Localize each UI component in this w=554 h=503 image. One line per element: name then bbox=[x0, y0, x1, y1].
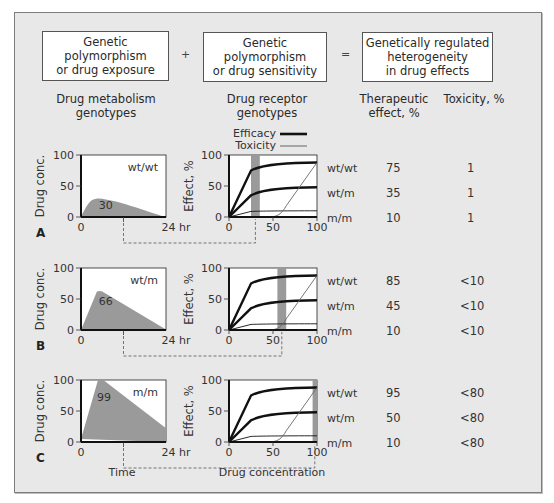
toxicity-value: <80 bbox=[460, 411, 484, 425]
conc-x-tick-label: 0 bbox=[78, 334, 85, 347]
effect-y-tick-label: 50 bbox=[208, 405, 222, 418]
toxicity-value: <80 bbox=[460, 386, 484, 400]
conc-y-tick-label: 0 bbox=[67, 324, 74, 337]
effect-x-tick-label: 100 bbox=[307, 221, 328, 234]
therapeutic-effect-value: 50 bbox=[386, 411, 401, 425]
toxicity-value: <10 bbox=[460, 299, 484, 313]
therapeutic-window-band bbox=[251, 155, 260, 217]
therapeutic-effect-value: 35 bbox=[386, 186, 401, 200]
effect-y-tick-label: 50 bbox=[208, 180, 222, 193]
therapeutic-window-band bbox=[313, 380, 317, 442]
therapeutic-effect-value: 85 bbox=[386, 274, 401, 288]
effect-x-tick-label: 100 bbox=[307, 334, 328, 347]
receptor-genotype-label: m/m bbox=[327, 437, 352, 450]
effect-x-tick-label: 0 bbox=[226, 446, 233, 459]
effect-y-tick-label: 100 bbox=[201, 149, 222, 162]
conc-y-label: Drug conc. bbox=[33, 268, 47, 330]
therapeutic-effect-value: 10 bbox=[386, 324, 401, 338]
therapeutic-effect-value: 10 bbox=[386, 211, 401, 225]
conc-y-tick-label: 50 bbox=[60, 405, 74, 418]
panel-a: 100500024 hrDrug conc.wt/wt30A1005000501… bbox=[33, 149, 358, 243]
metabolism-genotype-label: wt/m bbox=[130, 274, 158, 287]
effect-x-tick-label: 0 bbox=[226, 221, 233, 234]
peak-conc-label: 30 bbox=[99, 199, 113, 212]
receptor-genotype-label: wt/m bbox=[327, 187, 355, 200]
conc-x-tick-label: 24 hr bbox=[162, 446, 191, 459]
receptor-genotype-label: wt/wt bbox=[327, 387, 358, 400]
panel-letter: B bbox=[36, 339, 45, 353]
therapeutic-effect-value: 95 bbox=[386, 386, 401, 400]
toxicity-value: <80 bbox=[460, 436, 484, 450]
peak-conc-label: 99 bbox=[97, 391, 111, 404]
effect-y-tick-label: 0 bbox=[215, 324, 222, 337]
conc-x-tick-label: 24 hr bbox=[162, 221, 191, 234]
conc-x-tick-label: 24 hr bbox=[162, 334, 191, 347]
receptor-genotype-label: wt/m bbox=[327, 412, 355, 425]
metabolism-genotype-label: wt/wt bbox=[128, 161, 159, 174]
effect-x-tick-label: 50 bbox=[266, 446, 280, 459]
drug-concentration-axis-label: Drug concentration bbox=[219, 466, 326, 479]
effect-x-tick-label: 0 bbox=[226, 334, 233, 347]
receptor-genotype-label: wt/wt bbox=[327, 162, 358, 175]
receptor-genotype-label: wt/m bbox=[327, 300, 355, 313]
toxicity-value: 1 bbox=[467, 211, 474, 225]
receptor-genotype-label: m/m bbox=[327, 212, 352, 225]
conc-x-tick-label: 0 bbox=[78, 221, 85, 234]
toxicity-value: 1 bbox=[467, 186, 474, 200]
receptor-genotype-label: wt/wt bbox=[327, 275, 358, 288]
time-axis-label: Time bbox=[108, 466, 136, 479]
toxicity-value: 1 bbox=[467, 161, 474, 175]
effect-y-tick-label: 50 bbox=[208, 293, 222, 306]
conc-y-tick-label: 100 bbox=[53, 374, 74, 387]
therapeutic-effect-value: 75 bbox=[386, 161, 401, 175]
effect-y-label: Effect, % bbox=[182, 273, 196, 324]
effect-y-tick-label: 0 bbox=[215, 436, 222, 449]
conc-y-tick-label: 100 bbox=[53, 262, 74, 275]
charts-canvas: Efficacy Toxicity 100500024 hrDrug conc.… bbox=[0, 0, 554, 503]
peak-conc-label: 66 bbox=[99, 295, 113, 308]
effect-y-tick-label: 100 bbox=[201, 262, 222, 275]
effect-x-tick-label: 50 bbox=[266, 334, 280, 347]
effect-x-tick-label: 50 bbox=[266, 221, 280, 234]
effect-y-tick-label: 100 bbox=[201, 374, 222, 387]
effect-y-label: Effect, % bbox=[182, 160, 196, 211]
conc-x-tick-label: 0 bbox=[78, 446, 85, 459]
conc-y-tick-label: 50 bbox=[60, 293, 74, 306]
effect-y-label: Effect, % bbox=[182, 385, 196, 436]
panel-letter: A bbox=[36, 226, 46, 240]
conc-y-tick-label: 0 bbox=[67, 211, 74, 224]
conc-y-label: Drug conc. bbox=[33, 380, 47, 442]
metabolism-genotype-label: m/m bbox=[133, 386, 158, 399]
conc-y-tick-label: 100 bbox=[53, 149, 74, 162]
receptor-genotype-label: m/m bbox=[327, 325, 352, 338]
effect-x-tick-label: 100 bbox=[307, 446, 328, 459]
therapeutic-effect-value: 10 bbox=[386, 436, 401, 450]
toxicity-value: <10 bbox=[460, 324, 484, 338]
panel-b: 100500024 hrDrug conc.wt/m66B10050005010… bbox=[33, 262, 358, 356]
therapeutic-effect-value: 45 bbox=[386, 299, 401, 313]
connector-dashed-line bbox=[124, 332, 282, 356]
legend-toxicity-label: Toxicity bbox=[234, 139, 276, 152]
conc-y-tick-label: 50 bbox=[60, 180, 74, 193]
panel-letter: C bbox=[36, 451, 45, 465]
conc-y-tick-label: 0 bbox=[67, 436, 74, 449]
conc-y-label: Drug conc. bbox=[33, 155, 47, 217]
effect-y-tick-label: 0 bbox=[215, 211, 222, 224]
panel-c: 100500024 hrDrug conc.m/m99C100500050100… bbox=[33, 374, 358, 468]
toxicity-value: <10 bbox=[460, 274, 484, 288]
